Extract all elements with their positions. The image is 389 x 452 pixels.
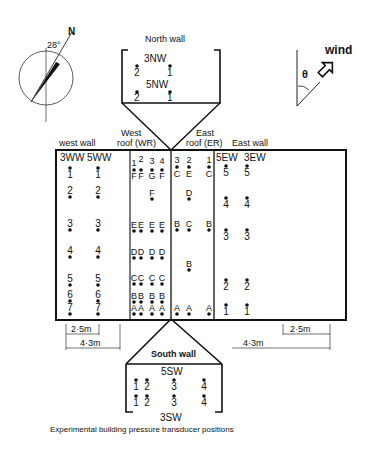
west-roof-zone-label: B <box>149 291 155 301</box>
theta-arc <box>298 86 309 90</box>
west-roof-dot <box>139 312 143 316</box>
compass: N 28° <box>19 26 75 122</box>
west-roof-points: 1234FFGFFEEEEDDDDCCCCBBBBAAAA <box>131 154 166 316</box>
west-wall-point-label: 3 <box>67 218 73 229</box>
east-roof-zone-label: C <box>206 169 213 179</box>
west-roof-zone-label: A <box>149 303 155 313</box>
west-roof-zone-label: D <box>159 247 166 257</box>
east-roof-zone-label: C <box>174 169 181 179</box>
east-roof-zone-label: B <box>174 219 180 229</box>
west-wall-point-label: 1 <box>95 169 101 180</box>
east-roof-dot <box>207 312 211 316</box>
west-inner-dimension: 2·5m <box>71 324 92 334</box>
east-wall-col-label: 3EW <box>244 152 266 163</box>
west-roof-zone-label: B <box>131 291 137 301</box>
north-label: N <box>68 26 75 37</box>
east-roof-zone-label: B <box>186 259 192 269</box>
west-wall-point-label: 2 <box>67 185 73 196</box>
wind-label: wind <box>324 43 352 57</box>
south-wall: South wall 5SW 3SW 12341234 <box>126 319 222 423</box>
west-roof-zone-label: E <box>138 220 144 230</box>
figure-caption: Experimental building pressure transduce… <box>50 425 234 434</box>
west-roof-dot <box>160 229 164 233</box>
west-roof-dot <box>160 282 164 286</box>
west-roof-zone-label: C <box>131 273 138 283</box>
west-roof-column-number: 3 <box>149 156 154 166</box>
west-roof-dot <box>160 312 164 316</box>
south-bottom-label: 3SW <box>160 412 182 423</box>
wind-indicator: wind θ <box>297 43 352 106</box>
south-wall-point-label: 2 <box>144 397 150 408</box>
east-inner-dimension: 2·5m <box>290 324 311 334</box>
west-roof-zone-label: A <box>159 303 165 313</box>
west-roof-zone-label: B <box>159 291 165 301</box>
west-roof-dot <box>139 282 143 286</box>
east-roof-column-number: 3 <box>174 155 179 165</box>
west-wall-dot <box>68 228 72 232</box>
south-wall-points: 12341234 <box>133 378 207 408</box>
west-wall-dot <box>96 228 100 232</box>
west-wall-col-label: 3WW <box>60 152 85 163</box>
west-roof-dot <box>132 312 136 316</box>
west-wall-point-label: 4 <box>95 245 101 256</box>
east-roof-zone-label: C <box>186 219 193 229</box>
west-wall-point-label: 5 <box>67 273 73 284</box>
east-roof-zone-label: E <box>186 169 192 179</box>
west-roof-dot <box>150 282 154 286</box>
east-wall-point-label: 2 <box>244 281 250 292</box>
west-wall-dot <box>96 283 100 287</box>
north-point-label: 2 <box>134 67 140 78</box>
west-wall-label: west wall <box>58 138 96 148</box>
west-roof-zone-label: D <box>131 247 138 257</box>
north-point-label: 2 <box>134 92 140 103</box>
west-wall-col-label: 5WW <box>87 152 112 163</box>
south-wall-point-label: 3 <box>171 397 177 408</box>
east-roof-zone-label: A <box>206 303 212 313</box>
north-row-label: 5NW <box>146 79 169 90</box>
west-roof-zone-label: F <box>149 188 155 198</box>
west-outer-dimension: 4·3m <box>80 338 101 348</box>
west-roof-column-number: 4 <box>159 156 164 166</box>
west-roof-zone-label: A <box>138 303 144 313</box>
east-wall-label: East wall <box>232 138 268 148</box>
east-wall-points: 5544332211 <box>223 164 250 317</box>
west-dimensions: 2·5m 4·3m <box>66 324 120 350</box>
west-wall-dot <box>96 312 100 316</box>
west-wall-point-label: 1 <box>67 169 73 180</box>
west-roof-dot <box>150 312 154 316</box>
east-roof-dot <box>187 268 191 272</box>
west-roof-dot <box>150 229 154 233</box>
south-wall-title: South wall <box>151 349 196 359</box>
west-roof-zone-label: G <box>148 171 155 181</box>
west-wall-point-label: 6 <box>95 289 101 300</box>
west-roof-zone-label: E <box>149 220 155 230</box>
west-roof-dot <box>150 197 154 201</box>
west-wall-point-label: 5 <box>95 273 101 284</box>
west-roof-zone-label: C <box>159 273 166 283</box>
east-roof-dot <box>187 197 191 201</box>
west-roof-column-number: 2 <box>138 154 143 164</box>
north-wall-title: North wall <box>145 34 185 44</box>
east-wall-point-label: 1 <box>223 306 229 317</box>
west-wall-points: 11223344556677 <box>67 166 101 316</box>
east-dimensions: 2·5m 4·3m <box>232 324 330 350</box>
west-roof-zone-label: F <box>131 171 137 181</box>
west-roof-dot <box>132 229 136 233</box>
west-wall-dot <box>68 312 72 316</box>
north-point-label: 1 <box>167 67 173 78</box>
south-wall-left-edge <box>126 364 133 412</box>
east-roof-dot <box>207 228 211 232</box>
east-wall-point-label: 3 <box>244 231 250 242</box>
west-wall-dot <box>68 283 72 287</box>
west-roof-dot <box>132 256 136 260</box>
east-roof-points: 321CECDBCBBAAA <box>174 155 213 316</box>
north-point-label: 1 <box>167 92 173 103</box>
east-roof-zone-label: D <box>186 188 193 198</box>
wind-arrow-icon <box>315 58 337 80</box>
west-roof-zone-label: F <box>138 171 144 181</box>
west-roof-zone-label: C <box>149 273 156 283</box>
west-wall-dot <box>68 195 72 199</box>
east-roof-zone-label: A <box>174 303 180 313</box>
east-roof-label-1: East <box>196 128 215 138</box>
west-roof-dot <box>139 229 143 233</box>
